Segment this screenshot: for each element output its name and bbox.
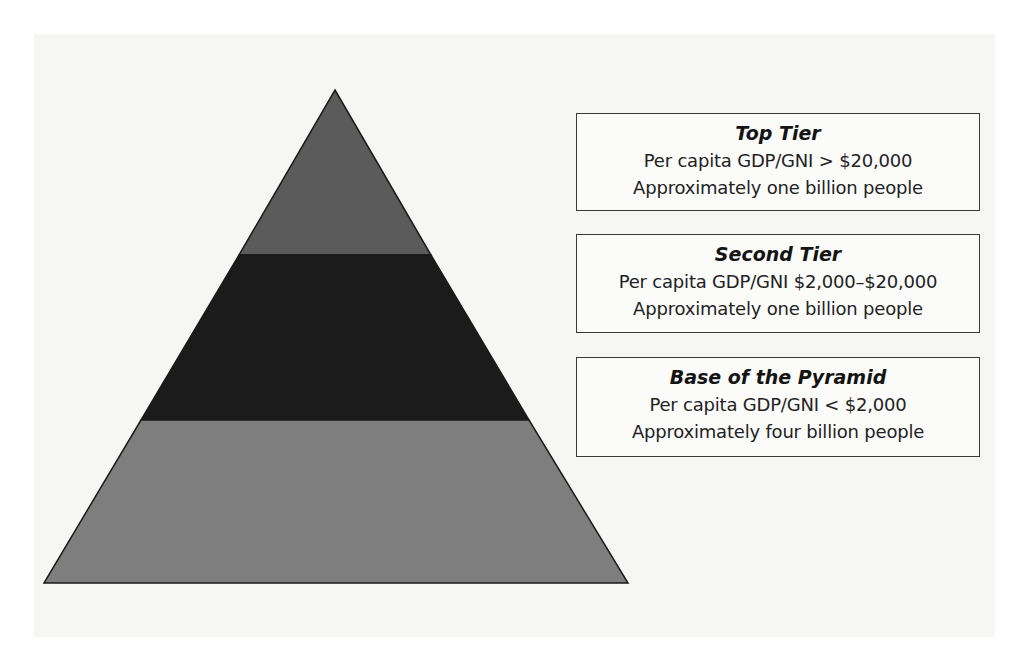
second-tier-population: Approximately one billion people — [577, 295, 979, 322]
pyramid-base-tier — [44, 420, 628, 583]
pyramid-top-tier — [239, 90, 431, 255]
base-tier-label-box: Base of the Pyramid Per capita GDP/GNI <… — [576, 357, 980, 457]
base-tier-population: Approximately four billion people — [577, 418, 979, 445]
pyramid-second-tier — [141, 255, 529, 420]
base-tier-income: Per capita GDP/GNI < $2,000 — [577, 391, 979, 418]
top-tier-label-box: Top Tier Per capita GDP/GNI > $20,000 Ap… — [576, 113, 980, 211]
second-tier-income: Per capita GDP/GNI $2,000–$20,000 — [577, 268, 979, 295]
top-tier-title: Top Tier — [577, 120, 979, 147]
second-tier-label-box: Second Tier Per capita GDP/GNI $2,000–$2… — [576, 234, 980, 333]
base-tier-title: Base of the Pyramid — [577, 364, 979, 391]
top-tier-population: Approximately one billion people — [577, 174, 979, 201]
top-tier-income: Per capita GDP/GNI > $20,000 — [577, 147, 979, 174]
second-tier-title: Second Tier — [577, 241, 979, 268]
